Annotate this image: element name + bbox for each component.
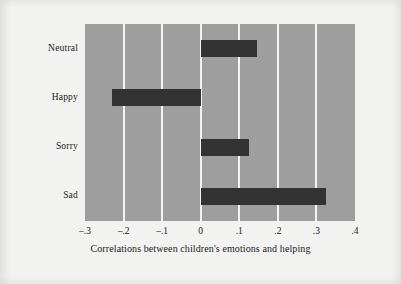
bar-sad	[201, 188, 326, 205]
bar-sorry	[201, 139, 249, 156]
x-tick-0p1: .1	[236, 226, 243, 236]
x-axis-tick-labels: –.3–.2–.10.1.2.3.4	[85, 226, 355, 240]
gridline-neg0p2	[123, 24, 125, 221]
x-tick-0p3: .3	[313, 226, 320, 236]
bar-neutral	[201, 40, 257, 57]
x-axis-title: Correlations between children's emotions…	[0, 243, 401, 254]
x-tick-neg0p2: –.2	[118, 226, 130, 236]
gridline-neg0p1	[161, 24, 163, 221]
y-tick-label-happy: Happy	[52, 92, 78, 102]
x-tick-0p2: .2	[274, 226, 281, 236]
bar-happy	[112, 89, 201, 106]
y-tick-label-sad: Sad	[63, 190, 78, 200]
y-tick-label-neutral: Neutral	[48, 43, 78, 53]
x-tick-neg0p3: –.3	[79, 226, 91, 236]
figure-container: Neutral Happy Sorry Sad –.3–.2–.10.1.2.3…	[0, 0, 401, 284]
x-tick-neg0p1: –.1	[156, 226, 168, 236]
plot-area	[85, 24, 355, 221]
y-axis-labels: Neutral Happy Sorry Sad	[0, 24, 78, 221]
x-tick-0: 0	[198, 226, 203, 236]
y-tick-label-sorry: Sorry	[56, 141, 78, 151]
x-tick-0p4: .4	[351, 226, 358, 236]
